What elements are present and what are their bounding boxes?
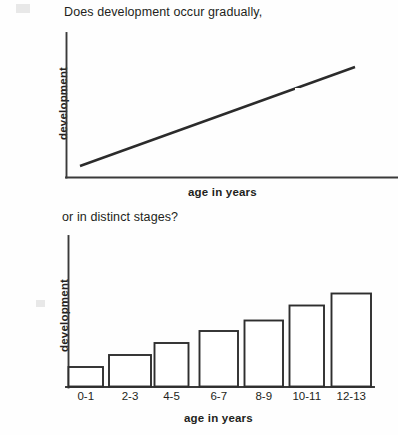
bottom-chart-bars [69,294,372,387]
scan-artifact [16,4,30,13]
chart-drawing-layer [0,0,398,435]
bottom-chart-x-axis-label: age in years [184,412,253,424]
top-chart-y-axis-label: development [57,67,69,140]
scan-artifact [36,300,45,307]
top-chart-x-axis-label: age in years [188,186,257,198]
bottom-chart-y-axis-label: development [58,279,70,352]
caption-gradual: Does development occur gradually, [64,5,262,19]
line-scan-gap [295,88,300,91]
bar-12-13 [332,294,372,387]
bar-8-9 [245,321,284,387]
figure-container: Does development occur gradually, develo… [0,0,398,435]
top-chart-trend-line [80,67,355,166]
bar-6-7 [200,331,239,387]
bar-2-3 [109,355,151,387]
bar-4-5 [155,343,189,387]
tick-label-12-13: 12-13 [320,390,384,402]
bar-0-1 [69,367,104,387]
bar-10-11 [290,306,325,387]
caption-stages: or in distinct stages? [62,210,178,224]
